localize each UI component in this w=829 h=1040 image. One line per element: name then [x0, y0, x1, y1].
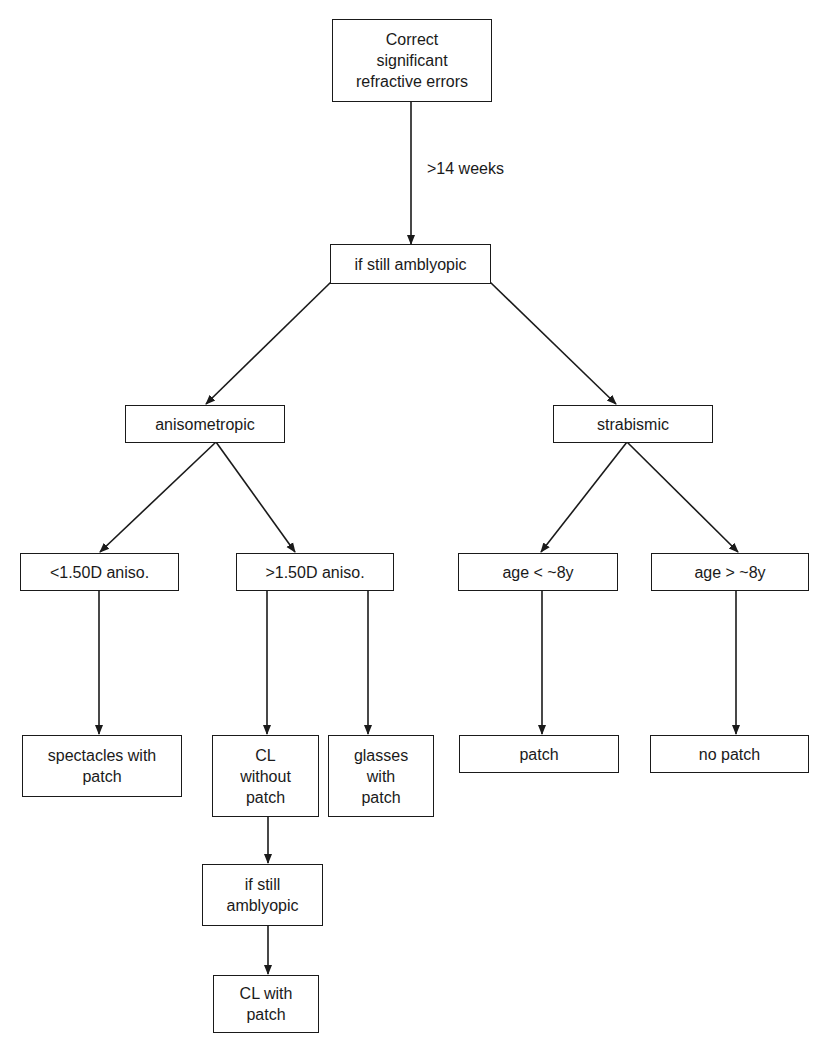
node-label: if still amblyopic — [354, 254, 466, 275]
node-label: Correct significant refractive errors — [356, 29, 468, 92]
node-patch: patch — [459, 735, 619, 773]
node-label: age < ~8y — [502, 562, 573, 583]
node-label: age > ~8y — [694, 562, 765, 583]
node-spectacles-with-patch: spectacles with patch — [22, 735, 182, 797]
node-cl-with-patch: CL with patch — [213, 975, 319, 1033]
node-label: if still amblyopic — [226, 874, 298, 916]
node-label: spectacles with patch — [48, 745, 157, 787]
node-label: no patch — [699, 744, 760, 765]
node-label: >1.50D aniso. — [265, 562, 364, 583]
node-aniso-greater-than-1-50d: >1.50D aniso. — [236, 553, 394, 591]
edge-strabismic-to-age-lt — [541, 442, 627, 552]
edge-anisometropic-to-aniso-gt — [216, 442, 295, 552]
node-label: CL with patch — [240, 983, 293, 1025]
node-if-still-amblyopic: if still amblyopic — [330, 244, 491, 284]
edge-strabismic-to-age-gt — [627, 442, 738, 552]
node-label: glasses with patch — [354, 745, 408, 808]
node-if-still-amblyopic-second: if still amblyopic — [202, 864, 323, 926]
node-age-under-8: age < ~8y — [458, 553, 618, 591]
node-label: CL without patch — [240, 745, 291, 808]
node-no-patch: no patch — [650, 735, 809, 773]
node-label: patch — [519, 744, 558, 765]
node-label: anisometropic — [155, 414, 255, 435]
node-age-over-8: age > ~8y — [651, 553, 809, 591]
node-correct-refractive-errors: Correct significant refractive errors — [332, 19, 492, 102]
node-aniso-less-than-1-50d: <1.50D aniso. — [20, 553, 179, 591]
edge-label-14-weeks: >14 weeks — [427, 159, 504, 179]
amblyopia-treatment-flowchart: >14 weeks Correct significant refractive… — [0, 0, 829, 1040]
node-label: <1.50D aniso. — [50, 562, 149, 583]
edge-anisometropic-to-aniso-lt — [100, 442, 216, 552]
flowchart-connectors — [0, 0, 829, 1040]
node-glasses-with-patch: glasses with patch — [328, 735, 434, 817]
edge-still-amblyopic-to-anisometropic — [206, 282, 331, 404]
node-strabismic: strabismic — [553, 405, 713, 443]
node-cl-without-patch: CL without patch — [212, 735, 319, 817]
node-label: strabismic — [597, 414, 669, 435]
edge-still-amblyopic-to-strabismic — [490, 282, 616, 404]
node-anisometropic: anisometropic — [125, 405, 285, 443]
